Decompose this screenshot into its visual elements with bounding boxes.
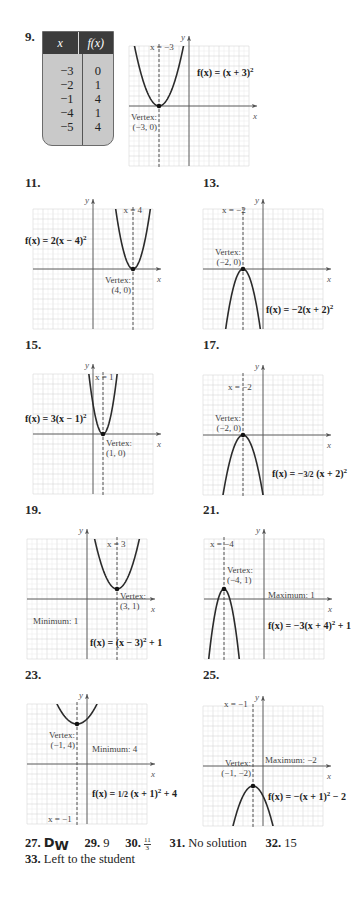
answer-33-number: 33.: [25, 852, 41, 866]
graphs-layer: xyf(x) = (x + 3)2x = −3Vertex:(−3, 0)xyf…: [0, 0, 364, 920]
svg-text:x = 1: x = 1: [95, 372, 114, 382]
svg-text:x: x: [156, 274, 161, 284]
svg-text:(−1, 4): (−1, 4): [50, 740, 75, 750]
svg-text:Vertex:: Vertex:: [227, 565, 253, 575]
svg-text:x: x: [156, 439, 161, 449]
svg-text:f(x) = −2(x + 2)2: f(x) = −2(x + 2)2: [266, 303, 334, 316]
svg-text:x: x: [326, 274, 331, 284]
vertex-point: [157, 104, 162, 109]
answer-29-value: 9: [103, 836, 109, 850]
answer-33-value: Left to the student: [44, 852, 135, 866]
svg-text:y: y: [78, 690, 83, 700]
svg-text:f(x) = 2(x − 4)2: f(x) = 2(x − 4)2: [25, 234, 87, 247]
svg-text:f(x) = (x − 3)2 + 1: f(x) = (x − 3)2 + 1: [90, 636, 162, 649]
answer-30-fraction: 113: [144, 837, 151, 852]
vertex-point: [251, 784, 256, 789]
svg-text:Vertex:: Vertex:: [106, 438, 132, 448]
svg-text:Vertex:: Vertex:: [49, 730, 75, 740]
svg-text:y: y: [180, 32, 185, 42]
vertex-point: [222, 587, 227, 592]
svg-text:y: y: [255, 525, 260, 535]
svg-text:f(x) = (x + 3)2: f(x) = (x + 3)2: [197, 66, 254, 79]
graph-25: xyf(x) = −(x + 1)2 − 2x = −1Vertex:(−1, …: [203, 692, 346, 920]
svg-text:x: x: [252, 111, 257, 121]
svg-text:Minimum: 4: Minimum: 4: [92, 744, 138, 754]
svg-text:y: y: [254, 692, 259, 702]
svg-text:Vertex:: Vertex:: [215, 247, 241, 257]
svg-text:x = −1: x = −1: [48, 814, 72, 824]
svg-text:f(x) = 3(x − 1)2: f(x) = 3(x − 1)2: [25, 412, 87, 425]
svg-text:y: y: [254, 361, 259, 371]
svg-text:y: y: [78, 525, 83, 535]
svg-text:Maximum: −2: Maximum: −2: [265, 755, 317, 765]
svg-text:x = −4: x = −4: [210, 539, 234, 549]
vertex-point: [241, 267, 246, 272]
svg-text:Vertex:: Vertex:: [131, 112, 157, 122]
svg-text:f(x) = −(x + 1)2 − 2: f(x) = −(x + 1)2 − 2: [268, 790, 346, 803]
answer-27-number: 27.: [25, 836, 41, 850]
svg-text:Minimum: 1: Minimum: 1: [33, 616, 78, 626]
svg-text:x: x: [327, 604, 332, 614]
svg-text:(3, 1): (3, 1): [120, 601, 140, 611]
answers-line-1: 27. DW 29. 9 30. 113 31. No solution 32.…: [25, 835, 297, 853]
svg-text:y: y: [84, 360, 89, 370]
answer-32-value: 15: [284, 836, 297, 850]
answer-32-number: 32.: [266, 836, 282, 850]
svg-text:(−2, 0): (−2, 0): [216, 257, 241, 267]
svg-text:(−3, 0): (−3, 0): [132, 122, 157, 132]
vertex-point: [75, 722, 80, 727]
svg-text:(4, 0): (4, 0): [112, 285, 132, 295]
svg-text:x: x: [326, 440, 331, 450]
answer-31-number: 31.: [169, 836, 185, 850]
svg-text:x = −1: x = −1: [224, 699, 248, 709]
svg-text:y: y: [254, 195, 259, 205]
dw-icon: DW: [44, 835, 69, 850]
svg-text:(1, 0): (1, 0): [106, 448, 126, 458]
svg-text:Maximum: 1: Maximum: 1: [268, 590, 315, 600]
svg-text:Vertex:: Vertex:: [225, 758, 251, 768]
answers-line-2: 33. Left to the student: [25, 852, 135, 867]
svg-text:x = 4: x = 4: [123, 205, 142, 215]
vertex-point: [241, 433, 246, 438]
svg-text:x = 3: x = 3: [107, 539, 126, 549]
svg-text:(−2, 0): (−2, 0): [216, 423, 241, 433]
svg-text:Vertex:: Vertex:: [120, 591, 146, 601]
svg-text:(−4, 1): (−4, 1): [227, 575, 252, 585]
svg-text:x: x: [150, 769, 155, 779]
answer-30-number: 30.: [125, 836, 141, 850]
svg-text:f(x) = −3/2 (x + 2)2: f(x) = −3/2 (x + 2)2: [272, 467, 347, 480]
svg-text:y: y: [84, 195, 89, 205]
svg-text:x: x: [326, 771, 331, 781]
vertex-point: [101, 432, 106, 437]
svg-text:Vertex:: Vertex:: [215, 413, 241, 423]
svg-text:f(x) = −3(x + 4)2 + 1: f(x) = −3(x + 4)2 + 1: [268, 619, 351, 632]
answer-31-value: No solution: [188, 836, 247, 850]
svg-text:Vertex:: Vertex:: [105, 275, 131, 285]
vertex-point: [131, 267, 136, 272]
svg-text:x = −3: x = −3: [150, 42, 174, 52]
svg-text:x: x: [150, 604, 155, 614]
vertex-point: [115, 587, 120, 592]
svg-text:x = −2: x = −2: [228, 382, 252, 392]
graph-19: xyf(x) = (x − 3)2 + 1x = 3Vertex:(3, 1)M…: [27, 0, 162, 661]
graph-9: xyf(x) = (x + 3)2x = −3Vertex:(−3, 0): [129, 0, 257, 168]
svg-text:x = −2: x = −2: [222, 205, 246, 215]
svg-text:(−1, −2): (−1, −2): [221, 768, 251, 778]
graph-11: xyf(x) = 2(x − 4)2x = 4Vertex:(4, 0): [25, 0, 161, 331]
svg-text:f(x) = 1/2 (x + 1)2 + 4: f(x) = 1/2 (x + 1)2 + 4: [92, 787, 177, 800]
graph-21: xyf(x) = −3(x + 4)2 + 1x = −4Vertex:(−4,…: [204, 525, 351, 920]
answer-29-number: 29.: [85, 836, 101, 850]
